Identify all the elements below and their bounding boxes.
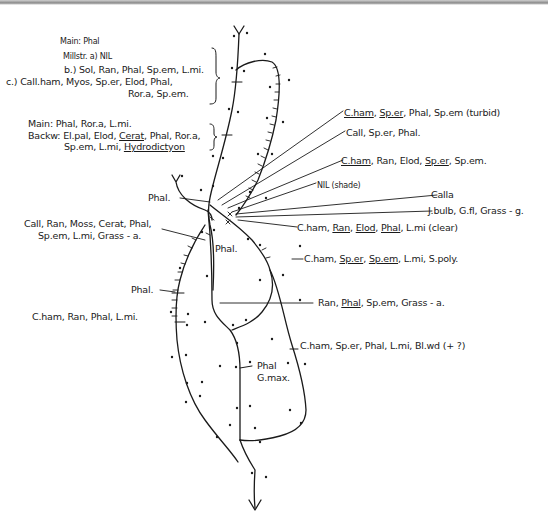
label-right-jbulb: J.bulb, G.fl, Grass - g. bbox=[428, 205, 524, 216]
label-backw-part2: , Phal, Ror.a, bbox=[144, 130, 200, 141]
inflow-arrow-icon bbox=[234, 26, 244, 34]
label-backw-line3: Sp.em, L.mi, Hydrodictyon bbox=[64, 141, 185, 152]
label-a: C.ham, bbox=[297, 222, 332, 233]
island-east bbox=[210, 205, 272, 330]
label-ran-u: Ran bbox=[332, 222, 350, 233]
label-phal-u: Phal bbox=[341, 297, 360, 308]
label-main-phal-rora: Main: Phal, Ror.a, L.mi. bbox=[28, 118, 131, 129]
label-phal-gmax-2: G.max. bbox=[257, 372, 290, 383]
label-sper-u: Sp.er bbox=[425, 155, 449, 166]
label-phal-left: Phal. bbox=[131, 284, 153, 295]
label-c: , L.mi, S.poly. bbox=[398, 253, 458, 264]
label-millstr-c1: c.) Call.ham, Myos, Sp.er, Elod, Phal, bbox=[6, 76, 173, 87]
vegetation-dots bbox=[170, 32, 306, 478]
label-cham-u: C.ham bbox=[341, 155, 371, 166]
label-right-ran-phal-grass: Ran, Phal, Sp.em, Grass - a. bbox=[318, 297, 444, 308]
bracket-group1 bbox=[210, 48, 220, 104]
label-backw-part1: Backw: El.pal, Elod, bbox=[28, 130, 119, 141]
label-right-nil-shade: NIL (shade) bbox=[317, 180, 361, 191]
label-rest: , Sp.em. bbox=[449, 155, 487, 166]
label-phal-u: Phal bbox=[381, 222, 400, 233]
label-right-blwd: C.ham, Sp.er, Phal, L.mi, Bl.wd (+ ?) bbox=[300, 340, 465, 351]
label-elod-u: Elod bbox=[356, 222, 376, 233]
label-right-turbid: C.ham, Sp.er, Phal, Sp.em (turbid) bbox=[344, 107, 500, 118]
label-call-ran-moss-1: Call, Ran, Moss, Cerat, Phal, bbox=[24, 218, 151, 229]
label-right-spoly: C.ham, Sp.er, Sp.em, L.mi, S.poly. bbox=[304, 253, 458, 264]
channel-far-east bbox=[240, 270, 306, 441]
bank-hatching bbox=[246, 67, 280, 198]
channel-east-loop bbox=[236, 60, 279, 215]
side-stream bbox=[172, 175, 212, 220]
label-right-calla: Calla bbox=[431, 189, 454, 200]
label-sper-u: Sp.er bbox=[379, 107, 403, 118]
label-hydrodictyon: Hydrodictyon bbox=[124, 141, 185, 152]
leader-lines bbox=[160, 111, 437, 303]
label-sper-u: Sp.er bbox=[339, 253, 363, 264]
label-turbid-rest: , Phal, Sp.em (turbid) bbox=[403, 107, 500, 118]
label-right-call-sper-phal: Call, Sp.er, Phal. bbox=[346, 127, 420, 138]
label-b: , Sp.em, Grass - a. bbox=[361, 297, 445, 308]
label-d: , L.mi (clear) bbox=[400, 222, 457, 233]
label-cham-ran-phal: C.ham, Ran, Phal, L.mi. bbox=[32, 311, 138, 322]
label-main-phal: Main: Phal bbox=[60, 36, 99, 47]
label-a: C.ham, bbox=[304, 253, 339, 264]
label-a: Ran, bbox=[318, 297, 341, 308]
label-phal-top: Phal. bbox=[148, 192, 170, 203]
channel-far-west bbox=[176, 225, 238, 462]
label-backw-cerat: Cerat bbox=[119, 130, 144, 141]
bracket-group2 bbox=[210, 124, 217, 150]
label-phal-mid: Phal. bbox=[215, 243, 237, 254]
label-cham-u: C.ham bbox=[344, 107, 374, 118]
label-spem-u: Sp.em bbox=[369, 253, 398, 264]
label-right-cham-ran-elod: C.ham, Ran, Elod, Sp.er, Sp.em. bbox=[341, 155, 486, 166]
label-millstr-a: Millstr. a) NIL bbox=[63, 51, 112, 62]
label-phal-gmax-1: Phal bbox=[257, 360, 276, 371]
label-call-ran-moss-2: Sp.em, L.mi, Grass - a. bbox=[38, 230, 141, 241]
label-backw-line3-text: Sp.em, L.mi, bbox=[64, 141, 124, 152]
label-millstr-c2: Ror.a, Sp.em. bbox=[128, 88, 189, 99]
label-backw: Backw: El.pal, Elod, Cerat, Phal, Ror.a, bbox=[28, 130, 200, 141]
label-mid: , Ran, Elod, bbox=[371, 155, 425, 166]
label-right-clear: C.ham, Ran, Elod, Phal, L.mi (clear) bbox=[297, 222, 458, 233]
outflow-channel bbox=[240, 440, 255, 508]
label-millstr-b: b.) Sol, Ran, Phal, Sp.em, L.mi. bbox=[64, 64, 204, 75]
